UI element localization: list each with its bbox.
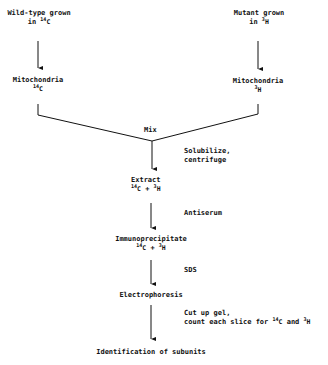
isotope-symbol: H xyxy=(265,18,269,26)
isotope-symbol: C xyxy=(137,185,141,193)
plus-sign: + xyxy=(150,244,154,252)
isotope-symbol: C xyxy=(39,85,43,93)
wildtype-node: Wild-type grown in 14C xyxy=(6,9,72,27)
mito-right-label: Mitochondria xyxy=(228,77,288,86)
isotope-symbol: C xyxy=(46,18,50,26)
mito-right-node: Mitochondria 3H xyxy=(228,77,288,95)
isotope-symbol: C xyxy=(279,318,283,326)
mutant-label: Mutant grown xyxy=(226,9,292,18)
count-text: count each slice for xyxy=(184,318,268,326)
and-text: and xyxy=(287,318,300,326)
merge-left-line xyxy=(38,104,152,141)
extract-isotopes: 14C + 3H xyxy=(131,185,161,194)
isotope-symbol: H xyxy=(307,318,311,326)
isotope-symbol: H xyxy=(157,185,161,193)
extract-node: Extract 14C + 3H xyxy=(131,176,161,194)
sds-step: SDS xyxy=(184,266,197,275)
electrophoresis-node: Electrophoresis xyxy=(114,291,188,300)
step-label: Solubilize, xyxy=(184,147,230,156)
immuno-node: Immunoprecipitate 14C + 3H xyxy=(110,235,192,253)
solubilize-step: Solubilize, centrifuge xyxy=(184,147,230,165)
isotope-symbol: H xyxy=(258,86,262,94)
immuno-isotopes: 14C + 3H xyxy=(110,244,192,253)
mito-left-node: Mitochondria 14C xyxy=(8,76,68,94)
wildtype-label: Wild-type grown xyxy=(6,9,72,18)
in-text: in xyxy=(28,18,36,26)
mito-left-isotope: 14C xyxy=(8,85,68,94)
in-text: in xyxy=(249,18,257,26)
step-label: Cut up gel, xyxy=(184,309,311,318)
plus-sign: + xyxy=(145,185,149,193)
mutant-node: Mutant grown in 3H xyxy=(226,9,292,27)
wildtype-isotope: in 14C xyxy=(6,18,72,27)
cut-gel-step: Cut up gel, count each slice for 14C and… xyxy=(184,309,311,327)
isotope-symbol: H xyxy=(162,244,166,252)
immuno-label: Immunoprecipitate xyxy=(110,235,192,244)
antiserum-step: Antiserum xyxy=(184,209,222,218)
final-node: Identification of subunits xyxy=(86,348,216,357)
isotope-symbol: C xyxy=(142,244,146,252)
step-label: centrifuge xyxy=(184,156,230,165)
mito-right-isotope: 3H xyxy=(228,86,288,95)
count-label: count each slice for 14C and 3H xyxy=(184,318,311,327)
mutant-isotope: in 3H xyxy=(226,18,292,27)
mix-label: Mix xyxy=(144,126,157,135)
merge-right-line xyxy=(152,104,258,141)
